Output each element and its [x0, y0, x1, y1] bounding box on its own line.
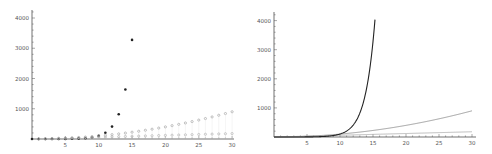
- y-tick-label: 3000: [15, 45, 29, 51]
- scatter-chart-left: 510152025301000200030004000: [0, 0, 246, 154]
- y-tick-label: 4000: [15, 15, 29, 21]
- x-tick-label: 5: [64, 142, 68, 148]
- x-tick-label: 10: [337, 140, 344, 146]
- figure: 510152025301000200030004000 510152025301…: [0, 0, 492, 154]
- data-point-exponential: [104, 132, 107, 135]
- x-tick-label: 25: [436, 140, 443, 146]
- data-point-exponential: [117, 113, 120, 116]
- line-chart-right: 510152025301000200030004000: [246, 0, 492, 154]
- x-tick-label: 10: [95, 142, 102, 148]
- x-tick-label: 30: [469, 140, 476, 146]
- data-point-exponential: [131, 39, 134, 42]
- line-exponential: [274, 20, 375, 137]
- x-tick-label: 15: [370, 140, 377, 146]
- data-point-exponential: [31, 138, 34, 141]
- y-tick-label: 1000: [15, 106, 29, 112]
- data-point-exponential: [111, 125, 114, 128]
- x-tick-label: 20: [162, 142, 169, 148]
- x-tick-label: 15: [129, 142, 136, 148]
- y-tick-label: 1000: [257, 105, 271, 111]
- y-tick-label: 4000: [257, 18, 271, 24]
- y-tick-label: 2000: [257, 76, 271, 82]
- x-tick-label: 5: [305, 140, 309, 146]
- y-tick-label: 2000: [15, 76, 29, 82]
- data-point-exponential: [124, 88, 127, 91]
- x-tick-label: 20: [403, 140, 410, 146]
- line-quadratic: [274, 111, 472, 137]
- y-tick-label: 3000: [257, 47, 271, 53]
- x-tick-label: 25: [195, 142, 202, 148]
- x-tick-label: 30: [229, 142, 236, 148]
